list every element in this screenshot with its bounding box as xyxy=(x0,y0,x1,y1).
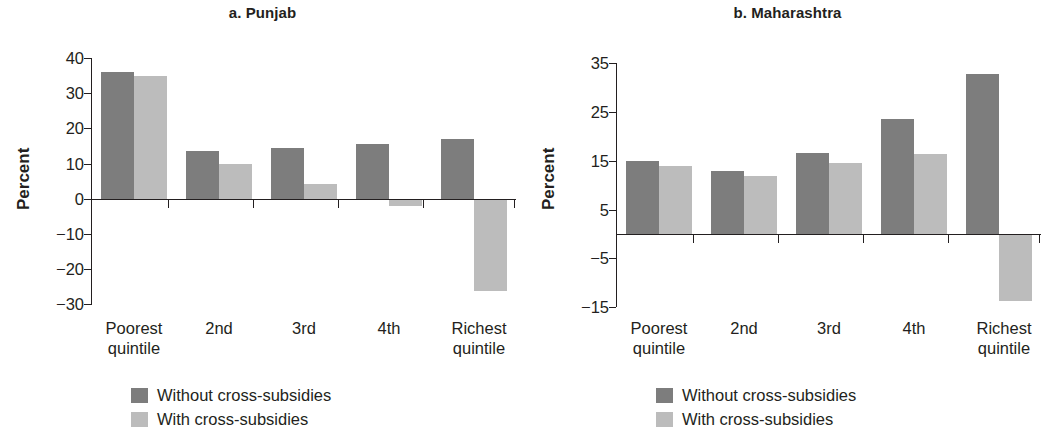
y-tick-label: 0 xyxy=(18,190,84,209)
y-tick-label: 35 xyxy=(543,54,609,73)
x-tick-mark xyxy=(338,200,339,208)
x-tick-mark xyxy=(423,200,424,208)
bar-with-cross-subsidies xyxy=(304,184,337,199)
y-tick-label: −5 xyxy=(543,249,609,268)
bar-with-cross-subsidies xyxy=(999,235,1032,301)
bar-with-cross-subsidies xyxy=(474,200,507,291)
bar-with-cross-subsidies xyxy=(914,154,947,234)
y-axis-line xyxy=(616,63,617,307)
x-tick-mark xyxy=(168,200,169,208)
panel-punjab: a. Punjab Percent 40 30 20 10 0 −10 −20 … xyxy=(0,0,525,446)
x-tick-mark xyxy=(693,235,694,243)
y-tick-mark xyxy=(84,58,91,59)
legend-item-without-cross-subsidies: Without cross-subsidies xyxy=(656,386,856,405)
y-tick-mark xyxy=(609,307,616,308)
legend-item-with-cross-subsidies: With cross-subsidies xyxy=(656,410,856,429)
y-tick-label: 40 xyxy=(18,49,84,68)
legend-label: Without cross-subsidies xyxy=(157,386,331,405)
x-tick-mark xyxy=(514,200,515,208)
legend-swatch-dark-icon xyxy=(656,388,673,403)
y-axis-line xyxy=(91,58,92,305)
y-tick-label: 10 xyxy=(18,155,84,174)
y-tick-mark xyxy=(84,199,91,200)
bar-with-cross-subsidies xyxy=(829,163,862,234)
y-tick-label: 5 xyxy=(543,201,609,220)
bar-with-cross-subsidies xyxy=(219,164,252,199)
bar-without-cross-subsidies xyxy=(881,119,914,234)
legend-item-without-cross-subsidies: Without cross-subsidies xyxy=(131,386,331,405)
y-tick-mark xyxy=(84,269,91,270)
bar-with-cross-subsidies xyxy=(659,166,692,234)
zero-baseline xyxy=(91,199,516,200)
bar-without-cross-subsidies xyxy=(356,144,389,199)
y-tick-label: 20 xyxy=(18,119,84,138)
y-tick-label: −20 xyxy=(18,260,84,279)
legend-swatch-light-icon xyxy=(656,412,673,427)
y-tick-label: 25 xyxy=(543,103,609,122)
legend-maharashtra: Without cross-subsidies With cross-subsi… xyxy=(656,386,856,434)
y-tick-mark xyxy=(84,234,91,235)
y-tick-label: 15 xyxy=(543,152,609,171)
y-tick-mark xyxy=(84,164,91,165)
y-tick-mark xyxy=(609,63,616,64)
bar-with-cross-subsidies xyxy=(744,176,777,234)
legend-label: With cross-subsidies xyxy=(157,410,308,429)
bar-without-cross-subsidies xyxy=(711,171,744,234)
zero-baseline xyxy=(616,234,1041,235)
y-tick-label: 30 xyxy=(18,84,84,103)
y-tick-mark xyxy=(84,128,91,129)
panel-divider xyxy=(524,0,525,446)
legend-label: Without cross-subsidies xyxy=(682,386,856,405)
x-category-label: Richest quintile xyxy=(949,318,1050,358)
panel-title-punjab: a. Punjab xyxy=(0,4,525,21)
x-tick-mark xyxy=(863,235,864,243)
y-tick-mark xyxy=(84,304,91,305)
y-tick-label: −15 xyxy=(543,298,609,317)
y-tick-mark xyxy=(609,161,616,162)
y-tick-label: −10 xyxy=(18,225,84,244)
bar-without-cross-subsidies xyxy=(796,153,829,234)
x-tick-mark xyxy=(253,200,254,208)
x-category-label: Richest quintile xyxy=(424,318,534,358)
y-tick-label: −30 xyxy=(18,295,84,314)
bar-without-cross-subsidies xyxy=(441,139,474,199)
y-tick-mark xyxy=(609,112,616,113)
bar-without-cross-subsidies xyxy=(186,151,219,199)
bar-without-cross-subsidies xyxy=(271,148,304,199)
x-tick-mark xyxy=(778,235,779,243)
panel-maharashtra: b. Maharashtra Percent 35 25 15 5 −5 −15 xyxy=(525,0,1050,446)
y-tick-mark xyxy=(609,210,616,211)
legend-swatch-light-icon xyxy=(131,412,148,427)
x-tick-mark xyxy=(948,235,949,243)
bar-without-cross-subsidies xyxy=(966,74,999,234)
legend-swatch-dark-icon xyxy=(131,388,148,403)
y-tick-mark xyxy=(84,93,91,94)
panel-title-maharashtra: b. Maharashtra xyxy=(525,4,1050,21)
bar-without-cross-subsidies xyxy=(626,161,659,234)
bar-with-cross-subsidies xyxy=(389,200,422,206)
y-tick-mark xyxy=(609,258,616,259)
legend-label: With cross-subsidies xyxy=(682,410,833,429)
figure-two-panel-bar-charts: a. Punjab Percent 40 30 20 10 0 −10 −20 … xyxy=(0,0,1050,446)
bar-without-cross-subsidies xyxy=(101,72,134,199)
x-tick-mark xyxy=(1039,235,1040,243)
legend-punjab: Without cross-subsidies With cross-subsi… xyxy=(131,386,331,434)
legend-item-with-cross-subsidies: With cross-subsidies xyxy=(131,410,331,429)
bar-with-cross-subsidies xyxy=(134,76,167,199)
